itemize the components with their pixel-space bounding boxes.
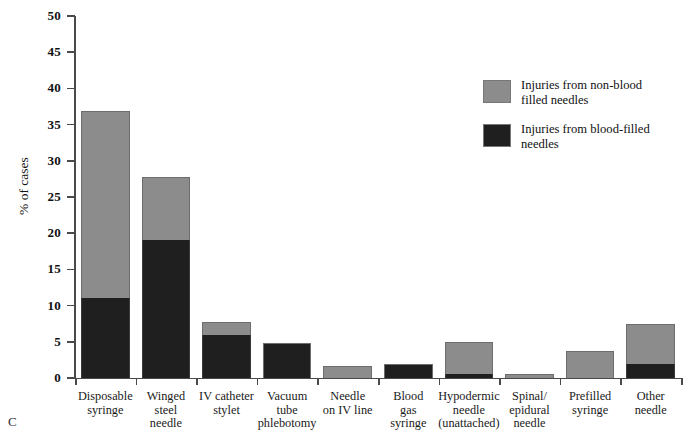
bar-segment-blood-filled xyxy=(445,374,493,378)
bar-segment-non-blood-filled xyxy=(445,342,493,375)
bar-stack xyxy=(323,366,371,378)
y-axis-tick-label: 0 xyxy=(21,371,61,384)
legend-swatch xyxy=(483,124,511,147)
y-axis-tick xyxy=(67,51,75,53)
bar-segment-non-blood-filled xyxy=(566,351,614,378)
x-axis-label-line: needle xyxy=(489,417,570,431)
chart-figure: % of cases 05101520253035404550 Disposab… xyxy=(0,0,688,441)
bar-group xyxy=(202,16,250,378)
bar-segment-non-blood-filled xyxy=(142,177,190,239)
bar-group xyxy=(142,16,190,378)
x-axis-tick xyxy=(75,378,77,385)
x-axis-tick xyxy=(136,378,138,385)
bar-segment-blood-filled xyxy=(263,343,311,378)
legend-item: Injuries from non-bloodfilled needles xyxy=(483,78,683,108)
legend-label-line: needles xyxy=(521,137,686,152)
y-axis-tick-label: 50 xyxy=(21,9,61,22)
bar-group xyxy=(384,16,432,378)
y-axis-tick-label: 35 xyxy=(21,118,61,131)
bar-group xyxy=(445,16,493,378)
bar-segment-non-blood-filled xyxy=(505,374,553,378)
legend-label: Injuries from non-bloodfilled needles xyxy=(521,78,686,107)
y-axis-tick-label: 40 xyxy=(21,81,61,94)
legend-label-line: filled needles xyxy=(521,93,686,108)
legend-swatch xyxy=(483,80,511,103)
y-axis-tick xyxy=(67,341,75,343)
x-axis-tick xyxy=(620,378,622,385)
y-axis-tick xyxy=(67,377,75,379)
y-axis-tick xyxy=(67,305,75,307)
y-axis-tick xyxy=(67,15,75,17)
bar-segment-non-blood-filled xyxy=(202,322,250,335)
panel-letter: C xyxy=(8,414,17,430)
legend-item: Injuries from blood-filledneedles xyxy=(483,122,683,152)
y-axis-tick-label: 15 xyxy=(21,262,61,275)
y-axis-tick-label: 30 xyxy=(21,154,61,167)
bar-segment-non-blood-filled xyxy=(323,366,371,378)
y-axis-tick xyxy=(67,160,75,162)
bar-stack xyxy=(445,342,493,378)
bar-stack xyxy=(626,324,674,378)
y-axis-tick xyxy=(67,124,75,126)
y-axis-tick-label: 20 xyxy=(21,226,61,239)
y-axis-tick-label: 10 xyxy=(21,299,61,312)
x-axis-label-line: needle xyxy=(610,404,688,418)
bar-stack xyxy=(81,111,129,378)
y-axis-tick-label: 45 xyxy=(21,45,61,58)
x-axis-tick xyxy=(378,378,380,385)
bar-group xyxy=(505,16,553,378)
y-axis-tick xyxy=(67,196,75,198)
bar-group xyxy=(263,16,311,378)
bar-segment-non-blood-filled xyxy=(81,111,129,299)
bar-segment-blood-filled xyxy=(81,298,129,378)
x-axis-tick xyxy=(499,378,501,385)
y-axis-tick xyxy=(67,232,75,234)
bar-segment-blood-filled xyxy=(202,335,250,378)
y-axis-tick xyxy=(67,269,75,271)
x-axis-label: Otherneedle xyxy=(610,390,688,417)
x-axis-tick xyxy=(681,378,683,385)
bar-segment-blood-filled xyxy=(142,240,190,378)
legend-label-line: Injuries from non-blood xyxy=(521,78,686,93)
plot-area xyxy=(75,16,681,378)
bar-stack xyxy=(142,177,190,378)
bar-group xyxy=(566,16,614,378)
y-axis-tick xyxy=(67,88,75,90)
bar-group xyxy=(626,16,674,378)
x-axis-label-line: needle xyxy=(126,417,207,431)
bar-segment-non-blood-filled xyxy=(626,324,674,363)
y-axis-tick-label: 25 xyxy=(21,190,61,203)
x-axis-label-line: phlebotomy xyxy=(247,417,328,431)
bar-segment-blood-filled xyxy=(384,364,432,378)
bar-stack xyxy=(505,374,553,378)
x-axis-tick xyxy=(257,378,259,385)
bar-group xyxy=(81,16,129,378)
bar-group xyxy=(323,16,371,378)
bar-segment-blood-filled xyxy=(626,364,674,378)
bar-stack xyxy=(384,364,432,378)
x-axis-label-line: Other xyxy=(610,390,688,404)
bar-stack xyxy=(566,351,614,378)
bar-stack xyxy=(263,343,311,378)
y-axis-tick-label: 5 xyxy=(21,335,61,348)
x-axis-tick xyxy=(560,378,562,385)
bar-stack xyxy=(202,322,250,378)
x-axis-tick xyxy=(196,378,198,385)
legend-label-line: Injuries from blood-filled xyxy=(521,122,686,137)
legend-label: Injuries from blood-filledneedles xyxy=(521,122,686,151)
chart-legend: Injuries from non-bloodfilled needlesInj… xyxy=(483,78,683,166)
x-axis-tick xyxy=(439,378,441,385)
x-axis-tick xyxy=(317,378,319,385)
